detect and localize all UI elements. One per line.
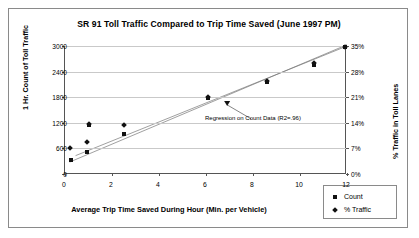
chart-legend: Count % Traffic [323, 185, 397, 219]
x-axis-tick-label: 0 [62, 181, 66, 188]
secondary-y-axis-title: % Traffic in Toll Lanes [391, 84, 400, 159]
secondary-y-axis-tick-label: 7% [351, 145, 361, 152]
legend-label: % Traffic [344, 206, 371, 213]
x-axis-tick-label: 6 [203, 181, 207, 188]
data-layer [65, 46, 347, 174]
x-axis-tick-label: 8 [250, 181, 254, 188]
secondary-y-axis-tick-label: 14% [351, 119, 364, 126]
data-point [122, 132, 126, 136]
regression-count [76, 46, 347, 156]
x-axis-tick-label: 10 [295, 181, 303, 188]
diamond-marker-icon [332, 207, 338, 213]
x-axis-title: Average Trip Time Saved During Hour (Min… [9, 205, 329, 214]
y-axis-tick-label: 600 [56, 145, 67, 152]
secondary-y-axis-tick-label: 21% [351, 94, 364, 101]
regression-percent [70, 45, 347, 162]
y-axis-tick-label: 3000 [52, 43, 67, 50]
legend-item-percent-traffic: % Traffic [324, 203, 396, 216]
y-axis-tick-label: 2400 [52, 68, 67, 75]
secondary-y-axis-tick-label: 28% [351, 68, 364, 75]
data-point [69, 158, 73, 162]
secondary-y-axis-tick [346, 148, 349, 149]
y-axis-tick-label: 1200 [52, 119, 67, 126]
x-axis-tick [300, 173, 301, 176]
chart-title: SR 91 Toll Traffic Compared to Trip Time… [9, 19, 409, 29]
x-axis-tick-label: 2 [109, 181, 113, 188]
annotation-arrow-icon [224, 101, 230, 106]
x-axis-tick [253, 173, 254, 176]
y-axis-tick-label: 1800 [52, 94, 67, 101]
legend-label: Count [344, 193, 363, 200]
chart-frame: SR 91 Toll Traffic Compared to Trip Time… [8, 8, 408, 228]
gridline [65, 46, 347, 47]
plot-area [64, 46, 346, 174]
x-axis-tick [159, 173, 160, 176]
gridline [65, 123, 347, 124]
x-axis-tick [347, 173, 348, 176]
x-axis-tick [206, 173, 207, 176]
y-axis-tick-label: 0 [63, 171, 67, 178]
secondary-y-axis-tick [346, 123, 349, 124]
y-axis-title: 1 Hr. Count of Toll Traffic [21, 25, 30, 110]
secondary-y-axis-tick [346, 72, 349, 73]
gridline [65, 72, 347, 73]
secondary-y-axis-tick-label: 35% [351, 43, 364, 50]
square-marker-icon [333, 195, 337, 199]
data-point [85, 150, 89, 154]
x-axis-tick [112, 173, 113, 176]
x-axis-tick-label: 4 [156, 181, 160, 188]
x-axis-tick-label: 12 [342, 181, 350, 188]
legend-item-count: Count [324, 190, 396, 203]
secondary-y-axis-tick-label: 0% [351, 171, 361, 178]
gridline [65, 148, 347, 149]
regression-annotation: Regression on Count Data (R2=.96) [205, 115, 301, 121]
secondary-y-axis-tick [346, 97, 349, 98]
